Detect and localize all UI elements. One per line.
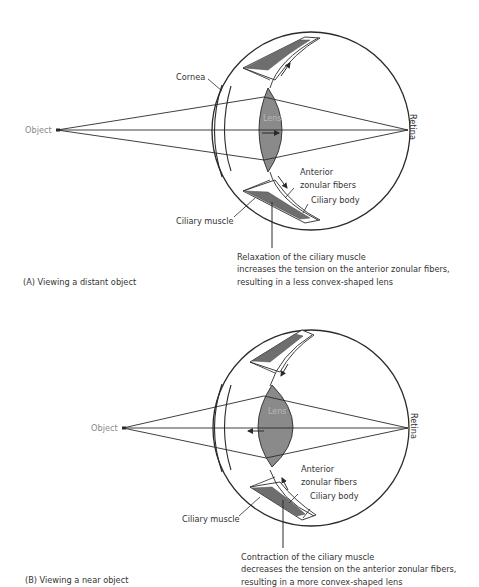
label-lens: Lens (263, 114, 281, 123)
lens (258, 385, 293, 467)
note-line-3: resulting in a more convex-shaped lens (241, 577, 402, 587)
label-lens: Lens (268, 407, 286, 416)
note-line-2: increases the tension on the anterior zo… (237, 264, 450, 274)
note-line-1: Relaxation of the ciliary muscle (237, 252, 366, 262)
cornea-arc-inner (225, 385, 232, 470)
label-retina: Retina (408, 114, 418, 140)
panel-b-near: Object Lens Retina Anterior zonular fibe… (25, 330, 456, 587)
note-line-1: Contraction of the ciliary muscle (241, 552, 374, 562)
label-ciliary-muscle: Ciliary muscle (176, 216, 234, 226)
label-object: Object (91, 423, 118, 433)
note-line-3: resulting in a less convex-shaped lens (237, 277, 393, 287)
label-ciliary-body: Ciliary body (310, 491, 359, 501)
object-marker (56, 129, 60, 132)
label-anterior: Anterior (300, 167, 334, 177)
caption-a: (A) Viewing a distant object (23, 277, 137, 287)
note-line-2: decreases the tension on the anterior zo… (241, 564, 456, 574)
label-anterior: Anterior (301, 464, 335, 474)
accommodation-diagram: Cornea Object Lens Retina Anterior zonul… (0, 0, 479, 587)
cornea-arc-outer (215, 85, 223, 177)
cornea-arc-inner (225, 86, 232, 171)
panel-a-distant: Cornea Object Lens Retina Anterior zonul… (23, 32, 450, 287)
label-object: Object (25, 125, 52, 135)
object-marker (122, 427, 126, 430)
caption-b: (B) Viewing a near object (25, 575, 129, 585)
label-zonular-fibers: zonular fibers (300, 180, 356, 190)
label-cornea: Cornea (176, 72, 205, 82)
label-ciliary-muscle: Ciliary muscle (182, 514, 240, 524)
label-zonular-fibers: zonular fibers (301, 477, 357, 487)
label-ciliary-body: Ciliary body (311, 195, 360, 205)
label-retina: Retina (409, 413, 419, 439)
